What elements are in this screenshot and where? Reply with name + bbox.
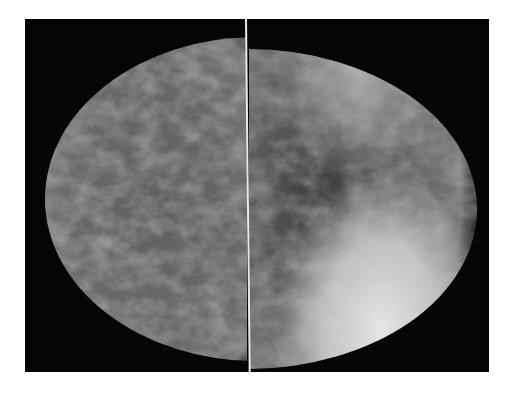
left-breast-view [25,19,247,372]
mammogram-frame [25,19,489,372]
right-breast-view [249,19,489,372]
